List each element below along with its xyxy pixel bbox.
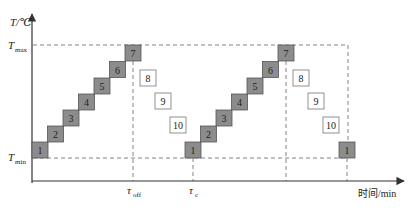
svg-text:T: T [8,39,15,51]
cycle1-heating-box-5: 5 [94,78,110,94]
box-label: 5 [253,81,258,92]
cycle1-cooling-box-10: 10 [170,117,186,133]
cycle2-cooling-box-10: 10 [323,117,339,133]
box-label: 1 [38,145,43,156]
cycle1-cooling-box-8: 8 [140,70,156,86]
cycle2-heating-box-2: 2 [201,126,217,142]
box-label: 4 [237,97,242,108]
svg-text:τ: τ [127,184,132,196]
box-label: 10 [173,120,183,131]
temperature-cycle-diagram: 12345678910123456789101 T/℃ T max T min … [0,0,416,212]
x-axis-label: 时间/min [358,187,396,199]
cycle1-heating-box-7: 7 [125,45,141,61]
tau-c-label: τ c [189,184,198,199]
box-label: 9 [314,96,319,107]
cycle2-heating-box-3: 3 [216,110,232,126]
tmax-label: T max [8,39,28,54]
cycle1-cooling-box-9: 9 [155,93,171,109]
cycle1-heating-box-4: 4 [79,94,95,110]
stage-boxes: 12345678910123456789101 [32,45,355,158]
cycle1-heating-box-6: 6 [110,62,126,78]
box-label: 2 [206,129,211,140]
box-label: 1 [345,145,350,156]
cycle2-cooling-box-9: 9 [308,93,324,109]
y-axis-label: T/℃ [10,16,32,28]
box-label: 6 [268,65,273,76]
svg-text:c: c [195,191,198,199]
box-label: 10 [326,120,336,131]
svg-text:T: T [8,151,15,163]
box-label: 2 [53,129,58,140]
box-label: 4 [84,97,89,108]
svg-text:max: max [15,46,28,54]
cycle2-heating-box-6: 6 [263,62,279,78]
box-label: 3 [222,113,227,124]
reference-lines [33,45,348,181]
tmin-label: T min [8,151,26,166]
box-label: 3 [69,113,74,124]
cycle2-heating-box-1: 1 [185,142,201,158]
box-label: 6 [115,65,120,76]
svg-text:off: off [133,191,142,199]
cycle1-heating-box-1: 1 [32,142,48,158]
box-label: 8 [299,73,304,84]
box-label: 1 [191,145,196,156]
cycle2-cooling-box-8: 8 [293,70,309,86]
cycle3-heating-box-1: 1 [339,142,355,158]
cycle2-heating-box-4: 4 [232,94,248,110]
cycle1-heating-box-2: 2 [48,126,64,142]
tau-off-label: τ off [127,184,142,199]
cycle2-heating-box-7: 7 [278,45,294,61]
svg-text:min: min [15,158,26,166]
box-label: 7 [284,48,289,59]
cycle1-heating-box-3: 3 [63,110,79,126]
cycle2-heating-box-5: 5 [247,78,263,94]
box-label: 7 [131,48,136,59]
box-label: 9 [161,96,166,107]
svg-text:τ: τ [189,184,194,196]
box-label: 8 [146,73,151,84]
box-label: 5 [100,81,105,92]
